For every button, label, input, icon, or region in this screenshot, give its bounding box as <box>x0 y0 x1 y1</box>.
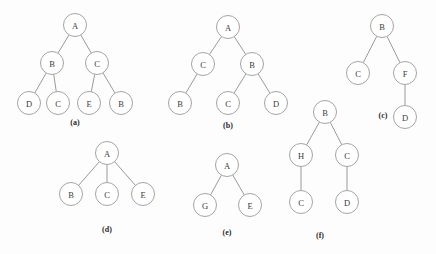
tree-node[interactable]: B <box>110 92 133 115</box>
tree-node[interactable]: C <box>336 144 359 167</box>
tree-node[interactable]: C <box>96 183 119 206</box>
tree-node[interactable]: D <box>265 92 288 115</box>
tree-node-label: C <box>298 198 304 208</box>
tree-node-label: D <box>402 113 408 123</box>
tree-node-label: B <box>49 59 55 69</box>
tree-edge <box>234 37 245 55</box>
tree-node[interactable]: C <box>347 62 370 85</box>
tree-node-label: G <box>202 201 208 211</box>
tree-node-label: B <box>249 60 255 70</box>
tree-node-label: A <box>104 149 111 159</box>
tree-edge <box>115 162 136 186</box>
tree-node-label: D <box>344 198 350 208</box>
tree-node-label: D <box>273 99 279 109</box>
tree-edge <box>186 74 197 93</box>
tree-e-nodes: AGE <box>194 154 262 217</box>
tree-edge <box>103 73 115 93</box>
tree-node[interactable]: B <box>169 92 192 115</box>
tree-edge <box>209 37 221 55</box>
subfigure-caption-d: (d) <box>102 225 112 234</box>
subfigure-caption-b: (b) <box>223 121 233 130</box>
tree-node-label: C <box>355 69 361 79</box>
tree-edge <box>258 74 270 93</box>
tree-node-label: C <box>344 151 350 161</box>
tree-node-label: C <box>200 60 206 70</box>
tree-node-label: E <box>140 190 145 200</box>
tree-node[interactable]: B <box>314 101 337 124</box>
tree-node[interactable]: H <box>290 144 313 167</box>
tree-node-label: B <box>177 99 183 109</box>
tree-node-label: C <box>94 59 100 69</box>
tree-node[interactable]: B <box>371 15 394 38</box>
tree-edge <box>234 74 246 93</box>
tree-edge <box>58 35 69 53</box>
tree-node[interactable]: G <box>194 194 217 217</box>
tree-edge <box>35 73 47 93</box>
tree-node[interactable]: F <box>394 62 417 85</box>
tree-node[interactable]: A <box>64 14 87 37</box>
tree-node-label: E <box>247 201 252 211</box>
tree-edge <box>91 74 94 91</box>
tree-node-label: A <box>225 23 232 33</box>
tree-node[interactable]: C <box>290 191 313 214</box>
tree-node-label: E <box>86 99 91 109</box>
tree-d-edges <box>79 162 136 186</box>
tree-b-nodes: ACBBCD <box>169 16 288 115</box>
tree-node[interactable]: E <box>239 194 262 217</box>
tree-node-label: A <box>72 21 79 31</box>
tree-node[interactable]: C <box>192 53 215 76</box>
tree-node-label: B <box>379 22 385 32</box>
tree-node-label: C <box>104 190 110 200</box>
tree-node[interactable]: E <box>132 183 155 206</box>
subfigure-caption-f: (f) <box>316 231 324 240</box>
tree-edge <box>330 122 342 145</box>
tree-diagram-canvas: ABCDCEBACBBCDBCFDABCEAGEBHCCD (a)(b)(c)(… <box>0 0 436 254</box>
tree-edge <box>54 74 57 91</box>
tree-node-label: C <box>55 99 61 109</box>
tree-node[interactable]: E <box>78 92 101 115</box>
tree-f-nodes: BHCCD <box>290 101 359 214</box>
tree-node[interactable]: D <box>18 92 41 115</box>
tree-node[interactable]: B <box>41 52 64 75</box>
tree-edge <box>307 122 320 145</box>
tree-edge <box>81 35 91 53</box>
tree-node-label: F <box>403 69 408 79</box>
tree-node[interactable]: C <box>86 52 109 75</box>
subfigure-caption-c: (c) <box>379 111 388 120</box>
tree-edge <box>211 175 222 195</box>
tree-node-label: B <box>118 99 124 109</box>
tree-node[interactable]: C <box>217 92 240 115</box>
tree-node-label: A <box>224 161 231 171</box>
tree-node[interactable]: D <box>394 106 417 129</box>
tree-node[interactable]: A <box>217 16 240 39</box>
subfigure-caption-e: (e) <box>223 228 232 237</box>
subfigure-caption-a: (a) <box>70 118 80 127</box>
tree-node-label: D <box>26 99 32 109</box>
tree-node[interactable]: A <box>216 154 239 177</box>
tree-node[interactable]: C <box>47 92 70 115</box>
tree-node[interactable]: B <box>60 183 83 206</box>
tree-a-nodes: ABCDCEB <box>18 14 133 115</box>
tree-edge <box>363 36 377 63</box>
tree-node[interactable]: D <box>336 191 359 214</box>
tree-node-label: B <box>322 108 328 118</box>
tree-node-label: C <box>225 99 231 109</box>
tree-figure-panel: ABCDCEBACBBCDBCFDABCEAGEBHCCD (a)(b)(c)(… <box>0 0 436 254</box>
tree-edge <box>79 162 100 186</box>
tree-node[interactable]: A <box>96 142 119 165</box>
tree-node-label: B <box>68 190 74 200</box>
tree-edge <box>233 175 245 195</box>
tree-node[interactable]: B <box>241 53 264 76</box>
tree-edge <box>387 36 400 62</box>
tree-e-edges <box>211 175 245 195</box>
tree-node-label: H <box>298 151 304 161</box>
